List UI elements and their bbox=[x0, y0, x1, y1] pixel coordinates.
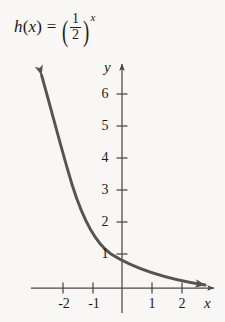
x-tick-label-neg2: -2 bbox=[53, 296, 75, 312]
y-axis bbox=[117, 64, 128, 313]
y-tick-label-3: 3 bbox=[98, 182, 112, 198]
exponential-decay-figure: h(x) = (12)x bbox=[0, 0, 225, 322]
y-tick-label-6: 6 bbox=[98, 86, 112, 102]
y-tick-label-1: 1 bbox=[98, 246, 112, 262]
y-axis-label: y bbox=[104, 59, 111, 76]
y-tick-label-4: 4 bbox=[98, 150, 112, 166]
y-tick-label-2: 2 bbox=[98, 214, 112, 230]
graph-canvas bbox=[0, 0, 225, 322]
x-tick-label-pos1: 1 bbox=[145, 296, 159, 312]
x-tick-label-neg1: -1 bbox=[83, 296, 105, 312]
y-tick-label-5: 5 bbox=[98, 118, 112, 134]
x-tick-label-pos2: 2 bbox=[175, 296, 189, 312]
x-axis-label: x bbox=[204, 295, 211, 312]
